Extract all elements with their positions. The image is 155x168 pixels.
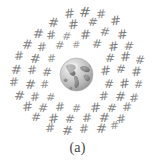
hash-symbol: # [42, 66, 53, 79]
hash-symbol: # [110, 120, 120, 132]
hash-symbol: # [14, 50, 25, 63]
hash-symbol: # [54, 40, 64, 52]
hash-symbol: # [26, 64, 37, 77]
hash-symbol: # [99, 64, 111, 78]
hash-symbol: # [33, 27, 45, 41]
hash-symbol: # [109, 14, 121, 28]
hash-symbol: # [72, 40, 81, 50]
hash-symbol: # [61, 124, 73, 138]
globe-icon [59, 57, 94, 92]
hash-symbol: # [40, 79, 50, 90]
hash-symbol: # [47, 53, 57, 65]
hash-symbol: # [8, 76, 19, 89]
hash-symbol: # [91, 38, 102, 51]
figure-caption: (a) [0, 140, 155, 156]
hash-symbol: # [31, 111, 42, 124]
hash-symbol: # [96, 122, 108, 136]
hash-symbol: # [131, 65, 142, 78]
hash-symbol: # [79, 123, 90, 136]
hash-symbol: # [134, 79, 144, 90]
hash-symbol: # [80, 28, 91, 41]
illustration-area: ########################################… [0, 0, 155, 140]
hash-symbol: # [45, 122, 56, 135]
figure-container: ########################################… [0, 0, 155, 168]
hash-symbol: # [115, 63, 126, 76]
earth-globe [59, 57, 94, 92]
